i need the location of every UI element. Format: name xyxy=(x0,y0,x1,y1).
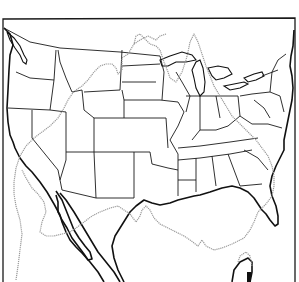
map-container xyxy=(0,0,299,282)
us-coastline xyxy=(4,28,294,282)
comparison-outline-north xyxy=(134,34,166,44)
us-map xyxy=(0,0,299,282)
comparison-outline xyxy=(14,34,274,280)
state-borders xyxy=(4,28,286,198)
great-lakes xyxy=(160,52,264,96)
